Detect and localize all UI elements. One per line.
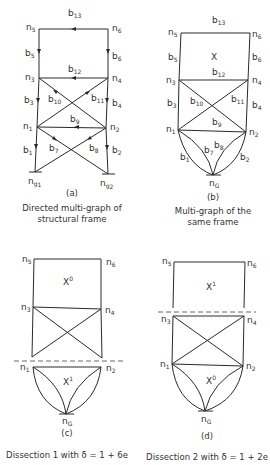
branch-label-b4: b4: [112, 98, 122, 109]
branch-label-b11: b11: [91, 93, 105, 104]
edge-b2: [106, 128, 108, 174]
arrow-icon: [105, 145, 109, 150]
node-label-n4: n4: [105, 305, 115, 316]
edge-b1: [35, 127, 37, 172]
arrow-icon: [71, 76, 76, 80]
region-label-x: X: [211, 52, 217, 62]
node-label-n4: n4: [112, 73, 122, 84]
region-label-x1: X1: [206, 280, 216, 292]
node-label-n2: n2: [249, 127, 259, 138]
arrow-icon: [52, 136, 57, 141]
region-label-x0: X0: [206, 374, 216, 386]
edge: [33, 307, 101, 309]
branch-label-b1: b1: [23, 145, 33, 156]
panel-c-dissection-1: n5 n6 n3 n4 n1 n2 nG X0 X1 (c) Dissectio…: [6, 254, 128, 460]
node-label-n5: n5: [22, 254, 32, 265]
branch-label-b6: b6: [112, 51, 122, 62]
node-label-n3: n3: [21, 302, 31, 313]
panel-b-multigraph: n5 n6 n3 n4 n1 n2 nG X b13 b5 b6 b12 b3 …: [166, 15, 262, 227]
edge: [33, 259, 34, 307]
edge: [32, 307, 33, 357]
branch-label-b3: b3: [167, 98, 177, 109]
arrow-icon: [53, 90, 58, 94]
caption-a-line1: Directed multi-graph of: [22, 203, 122, 213]
edge: [172, 364, 205, 411]
panel-a-directed-multigraph: n5 n6 n3 n4 n1 n2 ng1 ng2 b13 b5 b6 b12 …: [22, 8, 122, 224]
node-label-n4: n4: [247, 315, 257, 326]
branch-label-b7: b7: [49, 143, 59, 154]
edge-b9: [37, 127, 106, 128]
node-label-n2: n2: [110, 122, 120, 133]
arrow-icon: [85, 91, 90, 95]
branch-label-b9: b9: [212, 117, 222, 128]
node-label-n1: n1: [20, 362, 30, 373]
node-label-n1: n1: [160, 359, 170, 370]
branch-label-b12: b12: [68, 64, 82, 75]
node-label-ng2: ng2: [100, 178, 114, 190]
branch-label-b13: b13: [68, 8, 82, 19]
node-label-n3: n3: [166, 75, 176, 86]
node-label-nG: nG: [201, 414, 212, 425]
node-label-n2: n2: [246, 361, 256, 372]
caption-b-line1: Multi-graph of the: [175, 206, 251, 216]
node-label-ng1: ng1: [28, 176, 42, 188]
branch-label-b10: b10: [48, 94, 62, 105]
node-label-n3: n3: [161, 314, 171, 325]
edge: [101, 309, 102, 358]
edge-b4: [246, 80, 248, 132]
branch-label-b13: b13: [212, 15, 226, 26]
node-label-nG: nG: [209, 178, 220, 189]
panel-tag-d: (d): [201, 431, 213, 441]
edge: [172, 364, 243, 366]
panel-d-dissection-2: n5 n6 n3 n4 n1 n2 nG X1 X0 (d) Dissectio…: [146, 256, 268, 462]
edge-b5: [179, 33, 181, 80]
panel-tag-c: (c): [61, 428, 72, 438]
edge: [172, 316, 173, 364]
edge-b6: [248, 33, 250, 80]
node-label-n3: n3: [25, 72, 35, 83]
region-label-x1: X1: [63, 375, 73, 387]
arrow-icon: [37, 49, 41, 54]
branch-label-b7: b7: [204, 145, 214, 156]
arrow-icon: [106, 49, 110, 54]
node-label-n6: n6: [247, 258, 257, 269]
region-label-x0: X0: [63, 275, 73, 287]
edge-b9: [178, 130, 246, 132]
edge: [33, 367, 66, 414]
edge: [205, 366, 243, 411]
branch-label-b8: b8: [89, 143, 99, 154]
branch-label-b2: b2: [112, 145, 122, 156]
branch-label-b1: b1: [180, 152, 190, 163]
branch-label-b4: b4: [252, 100, 262, 111]
branch-label-b9: b9: [70, 114, 80, 125]
branch-label-b6: b6: [252, 52, 262, 63]
branch-label-b2: b2: [240, 152, 250, 163]
node-label-n1: n1: [23, 121, 33, 132]
node-label-n2: n2: [106, 363, 116, 374]
structural-frame-graph-figure: n5 n6 n3 n4 n1 n2 ng1 ng2 b13 b5 b6 b12 …: [0, 0, 270, 465]
arrow-icon: [105, 98, 109, 103]
caption-b-line2: same frame: [187, 217, 238, 227]
node-label-n6: n6: [252, 29, 262, 40]
branch-label-b11: b11: [231, 94, 245, 105]
edge-b3: [178, 80, 179, 130]
edge: [33, 367, 66, 414]
caption-d: Dissection 2 with δ = 1 + 2e: [146, 452, 268, 462]
branch-label-b3: b3: [24, 95, 34, 106]
branch-label-b12: b12: [212, 67, 226, 78]
node-label-n6: n6: [112, 23, 122, 34]
caption-c: Dissection 1 with δ = 1 + 6e: [6, 450, 128, 460]
branch-label-b8: b8: [214, 140, 224, 151]
node-label-n4: n4: [252, 75, 262, 86]
panel-tag-b: (b): [207, 192, 219, 202]
arrow-icon: [34, 144, 38, 149]
node-label-n6: n6: [106, 257, 116, 268]
edge: [173, 262, 174, 308]
arrow-icon: [36, 98, 40, 103]
node-label-n1: n1: [166, 124, 176, 135]
node-label-nG: nG: [62, 416, 73, 427]
branch-label-b5: b5: [25, 48, 35, 59]
arrow-icon: [74, 125, 79, 129]
caption-a-line2: structural frame: [37, 214, 106, 224]
node-label-n5: n5: [162, 256, 172, 267]
